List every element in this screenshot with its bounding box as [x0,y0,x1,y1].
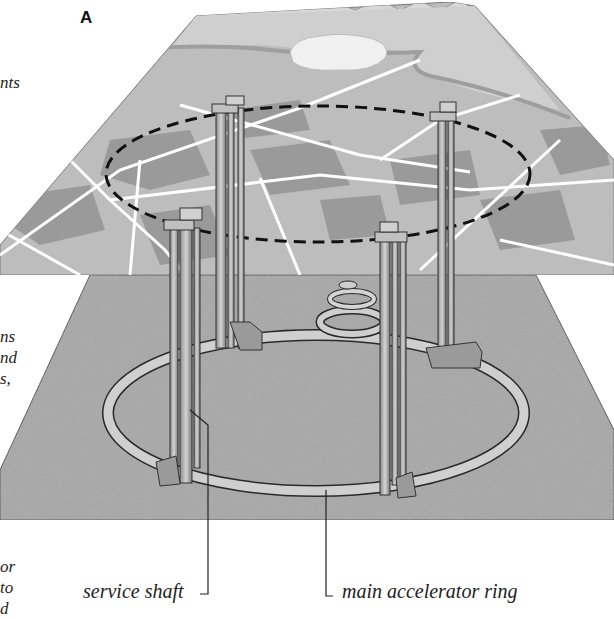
main-accelerator-ring-label: main accelerator ring [342,580,518,603]
accelerator-diagram: A nts ns nd s, or to d service shaft mai… [0,0,614,619]
cut-text-line: or [0,556,15,577]
cut-text-line: d [0,598,15,619]
cut-off-text-top: nts [0,72,20,93]
panel-label: A [80,8,92,28]
cut-text-line: nts [0,72,20,93]
service-shaft-label: service shaft [83,580,184,603]
surface-layer [0,0,614,275]
cut-text-line: s, [0,368,17,389]
diagram-illustration [0,0,614,619]
cut-off-text-bottom: or to d [0,556,15,619]
cut-text-line: ns [0,326,17,347]
cut-text-line: to [0,577,15,598]
cut-off-text-middle: ns nd s, [0,326,17,389]
cut-text-line: nd [0,347,17,368]
